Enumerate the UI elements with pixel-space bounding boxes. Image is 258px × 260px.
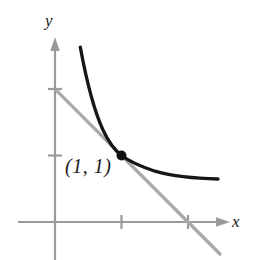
x-axis-label: x [232,213,240,230]
y-axis-arrowhead [50,37,60,51]
y-axis-label: y [45,12,53,29]
x-axis-arrowhead [216,217,230,227]
tangency-point-marker [117,151,127,161]
figure-tangent-line-reciprocal: y x (1, 1) [0,0,258,260]
tangency-point-label: (1, 1) [65,156,111,176]
plot-canvas [0,0,258,260]
